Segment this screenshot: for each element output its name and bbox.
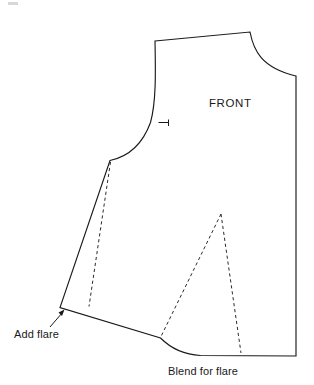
piece-label-front: FRONT (209, 97, 252, 109)
pattern-diagram-canvas: FRONT Add flare Blend for flare (0, 0, 314, 385)
add-flare-leader (50, 310, 65, 328)
annotation-add-flare: Add flare (14, 328, 59, 340)
annotation-blend-for-flare: Blend for flare (168, 365, 238, 377)
front-bodice-outline (60, 32, 296, 356)
scan-speck (8, 2, 18, 5)
pattern-drawing: FRONT Add flare Blend for flare (0, 0, 314, 385)
